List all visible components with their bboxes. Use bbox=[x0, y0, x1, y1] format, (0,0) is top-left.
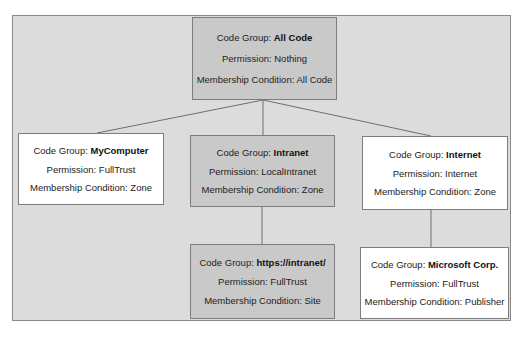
membership-label: Membership Condition: bbox=[30, 182, 130, 193]
membership-value: All Code bbox=[296, 74, 332, 85]
membership-label: Membership Condition: bbox=[197, 74, 297, 85]
code-group-label: Code Group: bbox=[33, 145, 90, 156]
code-group-line: Code Group: All Code bbox=[217, 32, 313, 43]
code-group-line: Code Group: Microsoft Corp. bbox=[371, 259, 498, 270]
membership-line: Membership Condition: Site bbox=[204, 295, 321, 306]
permission-line: Permission: FullTrust bbox=[390, 278, 479, 289]
permission-value: FullTrust bbox=[270, 276, 307, 287]
code-group-line: Code Group: Internet bbox=[389, 149, 481, 160]
membership-value: Publisher bbox=[465, 296, 505, 307]
code-group-line: Code Group: Intranet bbox=[217, 147, 309, 158]
membership-label: Membership Condition: bbox=[365, 296, 465, 307]
membership-label: Membership Condition: bbox=[204, 295, 304, 306]
membership-value: Site bbox=[304, 295, 320, 306]
permission-value: Nothing bbox=[274, 53, 307, 64]
code-group-line: Code Group: MyComputer bbox=[33, 145, 148, 156]
node-intranet: Code Group: Intranet Permission: LocalIn… bbox=[190, 135, 335, 207]
code-group-label: Code Group: bbox=[199, 257, 256, 268]
permission-value: FullTrust bbox=[99, 164, 136, 175]
permission-line: Permission: Internet bbox=[393, 168, 477, 179]
membership-label: Membership Condition: bbox=[202, 184, 302, 195]
membership-value: Zone bbox=[130, 182, 152, 193]
node-https-intranet: Code Group: https://intranet/ Permission… bbox=[190, 244, 335, 319]
code-group-value: Microsoft Corp. bbox=[428, 259, 498, 270]
permission-label: Permission: bbox=[393, 168, 445, 179]
permission-label: Permission: bbox=[390, 278, 442, 289]
permission-line: Permission: FullTrust bbox=[218, 276, 307, 287]
code-group-value: Intranet bbox=[274, 147, 309, 158]
node-all-code: Code Group: All Code Permission: Nothing… bbox=[192, 17, 337, 100]
code-group-label: Code Group: bbox=[389, 149, 446, 160]
code-group-value: Internet bbox=[446, 149, 481, 160]
membership-line: Membership Condition: All Code bbox=[197, 74, 333, 85]
code-group-value: https://intranet/ bbox=[256, 257, 325, 268]
membership-value: Zone bbox=[302, 184, 324, 195]
code-group-value: MyComputer bbox=[90, 145, 148, 156]
node-microsoft-corp: Code Group: Microsoft Corp. Permission: … bbox=[360, 247, 509, 319]
code-group-label: Code Group: bbox=[371, 259, 428, 270]
code-group-label: Code Group: bbox=[217, 147, 274, 158]
code-group-value: All Code bbox=[274, 32, 313, 43]
permission-label: Permission: bbox=[222, 53, 274, 64]
permission-value: Internet bbox=[445, 168, 477, 179]
membership-label: Membership Condition: bbox=[374, 186, 474, 197]
membership-line: Membership Condition: Zone bbox=[30, 182, 152, 193]
membership-line: Membership Condition: Zone bbox=[374, 186, 496, 197]
permission-value: FullTrust bbox=[442, 278, 479, 289]
membership-value: Zone bbox=[474, 186, 496, 197]
node-mycomputer: Code Group: MyComputer Permission: FullT… bbox=[18, 133, 164, 205]
membership-line: Membership Condition: Zone bbox=[202, 184, 324, 195]
permission-line: Permission: LocalIntranet bbox=[209, 166, 316, 177]
permission-line: Permission: FullTrust bbox=[47, 164, 136, 175]
permission-value: LocalIntranet bbox=[261, 166, 316, 177]
code-group-label: Code Group: bbox=[217, 32, 274, 43]
permission-label: Permission: bbox=[218, 276, 270, 287]
permission-label: Permission: bbox=[47, 164, 99, 175]
membership-line: Membership Condition: Publisher bbox=[365, 296, 505, 307]
code-group-line: Code Group: https://intranet/ bbox=[199, 257, 325, 268]
permission-line: Permission: Nothing bbox=[222, 53, 307, 64]
permission-label: Permission: bbox=[209, 166, 261, 177]
node-internet: Code Group: Internet Permission: Interne… bbox=[362, 136, 508, 210]
